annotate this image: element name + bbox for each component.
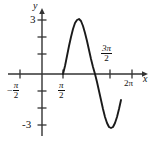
fraction-denominator: 2: [58, 90, 65, 100]
x-tick-label-neg-half-pi: − π 2: [7, 81, 19, 100]
x-tick-label-three-half-pi: 3π 2: [101, 44, 112, 63]
y-tick-label-minus-3: -3: [22, 119, 31, 130]
fraction-half-pi: π 2: [58, 81, 65, 100]
x-tick-label-two-pi: 2π: [124, 79, 133, 88]
fraction-neg-half-pi: π 2: [13, 81, 20, 100]
fraction-denominator: 2: [101, 53, 112, 63]
fraction-numerator: π: [58, 81, 65, 90]
y-axis-arrowhead: [39, 8, 45, 14]
fraction-numerator: π: [13, 81, 20, 90]
y-tick-label-3: 3: [30, 14, 36, 25]
fraction-denominator: 2: [13, 90, 20, 100]
fraction-numerator: 3π: [101, 44, 112, 53]
x-axis-label: x: [143, 74, 147, 84]
y-axis-label: y: [33, 1, 37, 11]
fraction-three-half-pi: 3π 2: [101, 44, 112, 63]
graph-figure: y x 3 -3 − π 2 π 2 3π 2 2π: [0, 0, 152, 142]
x-tick-label-half-pi: π 2: [58, 81, 65, 100]
